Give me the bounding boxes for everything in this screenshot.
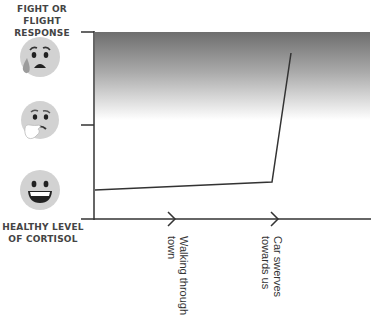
label-line: Car swerves	[272, 236, 284, 297]
label-line: towards us	[260, 236, 272, 297]
label-line: Walking through	[178, 236, 190, 315]
event-label-car: Car swerves towards us	[260, 236, 284, 297]
event-label-walking: Walking through town	[166, 236, 190, 315]
fight-or-flight-zone	[95, 32, 370, 120]
label-line: town	[166, 236, 178, 315]
